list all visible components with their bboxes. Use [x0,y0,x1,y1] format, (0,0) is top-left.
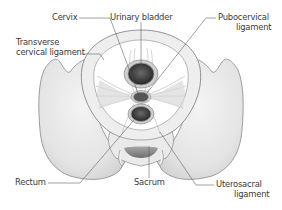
cervix [131,91,151,104]
label-rectum: Rectum [15,178,46,188]
label-cervix: Cervix [52,13,77,23]
label-pubocervical-ligament-line2: ligament [236,23,271,33]
label-sacrum: Sacrum [134,178,165,188]
rectum [128,104,154,124]
label-urinary-bladder: Urinary bladder [110,13,172,23]
label-uterosacral-ligament-line2: ligament [234,190,269,200]
label-transverse-cervical-ligament-line2: cervical ligament [16,48,85,58]
